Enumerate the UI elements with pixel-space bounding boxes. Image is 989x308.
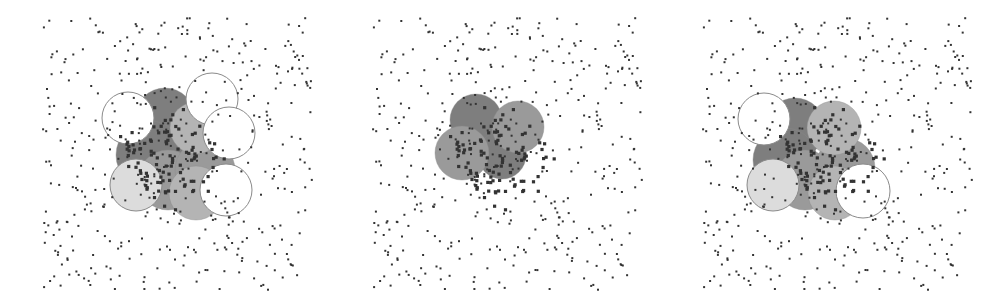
- data-point: [198, 272, 200, 274]
- data-point: [467, 57, 469, 59]
- data-point: [922, 284, 924, 286]
- data-point: [97, 92, 99, 94]
- data-point: [468, 132, 470, 134]
- data-point: [121, 93, 123, 95]
- data-point: [390, 285, 392, 287]
- data-point: [757, 92, 759, 94]
- data-point: [226, 235, 228, 237]
- data-point: [621, 244, 623, 246]
- data-point: [796, 25, 798, 27]
- data-point: [827, 221, 829, 223]
- data-point: [71, 236, 73, 238]
- data-point: [77, 72, 79, 74]
- data-point: [873, 242, 875, 244]
- data-point: [191, 133, 194, 136]
- data-point: [272, 225, 274, 227]
- data-point: [780, 242, 782, 244]
- data-point: [543, 142, 546, 145]
- data-point: [439, 129, 441, 131]
- data-point: [171, 159, 174, 162]
- data-point: [617, 70, 619, 72]
- data-point: [628, 25, 630, 27]
- data-point: [891, 38, 893, 40]
- data-point: [605, 65, 607, 67]
- data-point: [394, 61, 396, 63]
- data-point: [441, 102, 443, 104]
- data-point: [951, 67, 953, 69]
- data-point: [454, 199, 456, 201]
- data-point: [490, 64, 492, 66]
- data-point: [156, 267, 158, 269]
- data-point: [479, 197, 481, 199]
- data-point: [186, 33, 188, 35]
- data-point: [860, 151, 862, 153]
- data-point: [942, 277, 944, 279]
- data-point: [834, 190, 837, 193]
- data-point: [483, 106, 486, 109]
- data-point: [839, 171, 842, 174]
- data-point: [558, 237, 560, 239]
- data-point: [617, 258, 619, 260]
- data-point: [716, 50, 718, 52]
- data-point: [510, 119, 512, 121]
- data-point: [512, 108, 515, 111]
- data-point: [844, 255, 846, 257]
- data-point: [546, 104, 548, 106]
- data-point: [212, 35, 214, 37]
- data-point: [114, 288, 116, 290]
- data-point: [796, 102, 798, 104]
- data-point: [400, 103, 402, 105]
- data-point: [158, 140, 160, 142]
- data-point: [396, 257, 398, 259]
- data-point: [206, 152, 208, 154]
- data-point: [241, 257, 243, 259]
- data-point: [82, 48, 84, 50]
- data-point: [449, 73, 451, 75]
- data-point: [402, 250, 404, 252]
- data-point: [462, 43, 464, 45]
- data-point: [182, 108, 185, 111]
- data-point: [77, 225, 79, 227]
- data-point: [524, 80, 526, 82]
- data-point: [89, 284, 91, 286]
- data-point: [121, 80, 123, 82]
- data-point: [499, 118, 502, 121]
- data-point: [901, 260, 903, 262]
- data-point: [829, 118, 832, 121]
- data-point: [634, 162, 636, 164]
- data-point: [502, 66, 504, 68]
- panel-right: [660, 0, 989, 308]
- data-point: [536, 152, 538, 154]
- data-point: [145, 215, 147, 217]
- data-point: [377, 97, 379, 99]
- data-point: [740, 165, 742, 167]
- data-point: [497, 173, 500, 176]
- data-point: [294, 84, 296, 86]
- data-point: [540, 215, 542, 217]
- data-point: [846, 33, 848, 35]
- data-point: [824, 119, 827, 122]
- data-point: [498, 179, 501, 182]
- data-point: [834, 208, 837, 211]
- data-point: [65, 117, 67, 119]
- data-point: [179, 180, 181, 182]
- data-point: [45, 130, 47, 132]
- data-point: [508, 86, 510, 88]
- data-point: [141, 238, 143, 240]
- data-point: [143, 142, 146, 145]
- data-point: [891, 242, 893, 244]
- data-point: [216, 249, 218, 251]
- data-point: [432, 32, 434, 34]
- data-point: [248, 99, 250, 101]
- data-point: [714, 250, 716, 252]
- data-point: [711, 53, 713, 55]
- data-point: [816, 156, 819, 159]
- data-point: [486, 208, 488, 210]
- data-point: [910, 146, 912, 148]
- data-point: [373, 286, 375, 288]
- data-point: [752, 168, 754, 170]
- data-point: [133, 97, 135, 99]
- data-point: [137, 161, 140, 164]
- data-point: [216, 104, 218, 106]
- data-point: [167, 221, 169, 223]
